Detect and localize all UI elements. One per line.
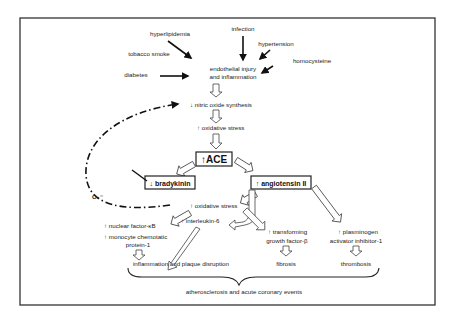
label-mcp-1: ↑ monocyte chemotatic	[104, 233, 167, 240]
hollow-arrow-pai	[350, 246, 362, 256]
label-bradykinin: ↓ bradykinin	[150, 180, 191, 188]
hollow-arrow-mcp	[133, 250, 145, 260]
label-tgf-2: growth factor-β	[266, 237, 308, 244]
label-and-inflammation: and inflammation	[209, 73, 257, 80]
label-mcp-2: protein-1	[126, 241, 151, 248]
outcome-brace	[128, 268, 379, 285]
label-interleukin-6: ↑ interleukin-6	[181, 217, 220, 224]
arrow-hyperlipidemia	[168, 41, 191, 58]
label-angiotensin: ↑ angiotensin II	[256, 180, 307, 188]
label-o2: O₂⁻	[92, 193, 103, 200]
label-tgf-1: ↑ transforming	[268, 228, 308, 235]
label-inflammation-plaque: inflammation and plaque disruption	[133, 260, 230, 267]
hollow-arrow-tgf	[280, 246, 292, 256]
hollow-arrow-1	[210, 84, 222, 97]
label-infection: infection	[231, 25, 255, 32]
label-fibrosis: fibrosis	[276, 260, 296, 267]
label-ace: ↑ACE	[201, 154, 227, 165]
arrow-homocysteine	[262, 66, 273, 73]
label-nfkb: ↑ nuclear factor-κB	[104, 222, 156, 229]
hollow-arrow-ang-oxstress	[237, 189, 259, 208]
label-pai-2: activator inhibitor-1	[330, 237, 383, 244]
arrow-hypertension	[260, 50, 270, 59]
label-hypertension: hypertension	[258, 40, 294, 47]
label-oxidative-stress-1: ↑ oxidative stress	[197, 124, 244, 131]
hollow-arrow-ang-pai	[309, 183, 345, 225]
label-thrombosis: thrombosis	[341, 260, 371, 267]
label-diabetes: diabetes	[124, 71, 147, 78]
label-hyperlipidemia: hyperlipidemia	[150, 30, 190, 37]
label-nitric-oxide: ↓ nitric oxide synthesis	[190, 101, 252, 108]
feedback-loop-o2	[86, 104, 178, 207]
diagram-canvas: infection hyperlipidemia hypertension to…	[0, 0, 453, 321]
label-final-outcome: atherosclerosis and acute coronary event…	[186, 288, 302, 295]
label-oxidative-stress-2: ↑ oxidative stress	[190, 202, 237, 209]
label-tobacco-smoke: tobacco smoke	[128, 50, 170, 57]
label-homocysteine: homocysteine	[293, 57, 332, 64]
hollow-arrow-3	[210, 134, 222, 149]
label-pai-1: ↑ plasminogen	[338, 228, 378, 235]
hollow-arrow-ace-angiotensin	[233, 155, 256, 176]
hollow-arrow-2	[210, 110, 222, 123]
label-endothelial-injury: endothelial injury	[210, 65, 257, 72]
